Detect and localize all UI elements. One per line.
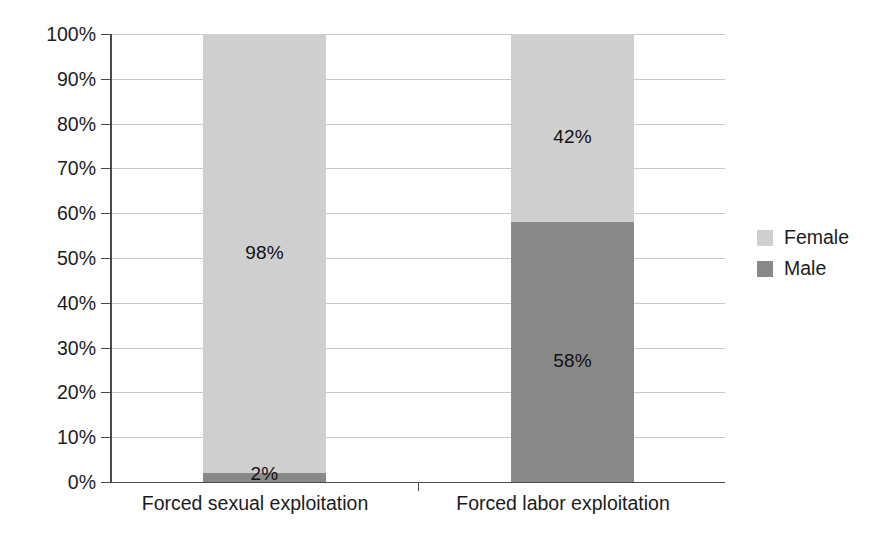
y-tick-mark-80 [101,124,110,125]
legend-label-female: Female [784,228,849,248]
legend-item-female[interactable]: Female [757,222,849,253]
y-tick-mark-0 [101,482,110,483]
plot-area: 98% 2% 42% 58% [110,34,725,482]
y-tick-mark-20 [101,392,110,393]
stacked-bar-chart: 98% 2% 42% 58% 100% 90% 80% 70% 60% 50% … [0,0,890,543]
legend: Female Male [757,222,849,284]
y-tick-label-30: 30% [0,337,96,360]
y-tick-label-80: 80% [0,113,96,136]
y-tick-label-60: 60% [0,202,96,225]
y-tick-mark-100 [101,34,110,35]
legend-label-male: Male [784,259,826,279]
y-tick-label-10: 10% [0,426,96,449]
bar-value-label-female: 42% [511,126,634,148]
y-tick-mark-90 [101,79,110,80]
legend-item-male[interactable]: Male [757,253,849,284]
y-tick-mark-10 [101,437,110,438]
bar-value-label-female: 98% [203,242,326,264]
y-tick-mark-40 [101,303,110,304]
bar-value-label-male: 58% [511,350,634,372]
y-axis-line [110,34,112,483]
y-tick-label-40: 40% [0,292,96,315]
bar-value-label-male: 2% [203,463,326,485]
bar-forced-sexual-exploitation[interactable]: 98% 2% [203,34,326,482]
x-category-label-forced-labor-exploitation: Forced labor exploitation [452,492,674,515]
y-tick-label-50: 50% [0,247,96,270]
y-tick-label-100: 100% [0,23,96,46]
y-tick-mark-50 [101,258,110,259]
legend-swatch-male-icon [757,261,773,277]
y-tick-mark-30 [101,348,110,349]
legend-swatch-female-icon [757,230,773,246]
y-tick-label-70: 70% [0,157,96,180]
x-category-label-forced-sexual-exploitation: Forced sexual exploitation [141,492,369,515]
y-tick-mark-60 [101,213,110,214]
y-tick-label-20: 20% [0,381,96,404]
y-tick-label-90: 90% [0,68,96,91]
y-tick-mark-70 [101,168,110,169]
x-tick-mark-middle [418,482,419,491]
bar-forced-labor-exploitation[interactable]: 42% 58% [511,34,634,482]
y-tick-label-0: 0% [0,471,96,494]
